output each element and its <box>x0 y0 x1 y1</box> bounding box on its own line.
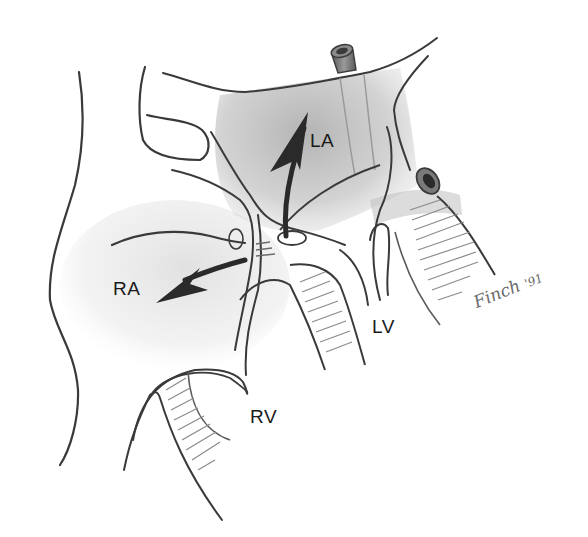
label-right-ventricle: RV <box>250 406 277 428</box>
pulmonary-vein-stub <box>330 42 356 73</box>
rv-hatching <box>166 378 220 470</box>
label-right-atrium: RA <box>113 278 140 300</box>
heart-drawing <box>0 0 588 537</box>
heart-illustration: LA RA LV RV Finch '91 <box>0 0 588 537</box>
label-left-atrium: LA <box>310 130 334 152</box>
label-left-ventricle: LV <box>372 316 395 338</box>
lv-hatching <box>410 200 478 300</box>
septum-hatching <box>300 272 352 352</box>
